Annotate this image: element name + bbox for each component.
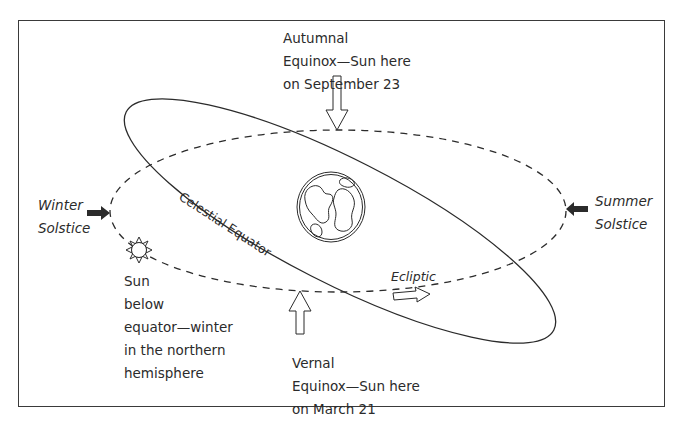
globe-icon bbox=[297, 172, 365, 242]
vernal-equinox-arrow bbox=[289, 291, 311, 334]
winter-solstice-label: Winter Solstice bbox=[38, 194, 90, 240]
vernal-equinox-label: Vernal Equinox—Sun here on March 21 bbox=[292, 352, 420, 421]
ecliptic-label: Ecliptic bbox=[391, 269, 436, 284]
autumnal-equinox-label: Autumnal Equinox—Sun here on September 2… bbox=[283, 27, 411, 96]
sun-icon bbox=[126, 237, 152, 263]
winter-solstice-arrow bbox=[87, 206, 110, 220]
celestial-equator-label: Celestial Equator bbox=[176, 189, 274, 260]
summer-solstice-arrow bbox=[566, 202, 588, 216]
sun-below-equator-label: Sun below equator—winter in the northern… bbox=[124, 270, 233, 385]
summer-solstice-label: Summer Solstice bbox=[595, 190, 652, 236]
ecliptic-path bbox=[110, 130, 566, 292]
